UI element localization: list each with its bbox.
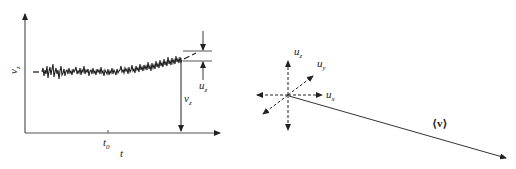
turbulent-signal: [42, 56, 182, 79]
uz-label: uz: [294, 45, 303, 60]
velocity-vector-diagram: uz uy ux ⟨v⟩: [257, 45, 506, 158]
t0-label: t0: [103, 136, 110, 151]
mean-vector-label: ⟨v⟩: [432, 117, 448, 129]
x-axis-label: t: [120, 147, 124, 159]
mean-extension-dash: [184, 53, 196, 59]
uy-label: uy: [317, 57, 327, 72]
fluct-label: uz: [199, 79, 208, 94]
velocity-fluctuation-diagram: vz t0 t vz uz: [0, 0, 516, 169]
uy-arrow-upright: [288, 76, 313, 95]
y-axis-label: vz: [7, 66, 22, 74]
uy-arrow-downleft: [263, 95, 288, 114]
mean-velocity-label: vz: [184, 92, 192, 107]
time-series-plot: vz t0 t vz uz: [7, 14, 220, 159]
ux-label: ux: [326, 88, 336, 103]
mean-vector-arrow: [289, 96, 506, 158]
